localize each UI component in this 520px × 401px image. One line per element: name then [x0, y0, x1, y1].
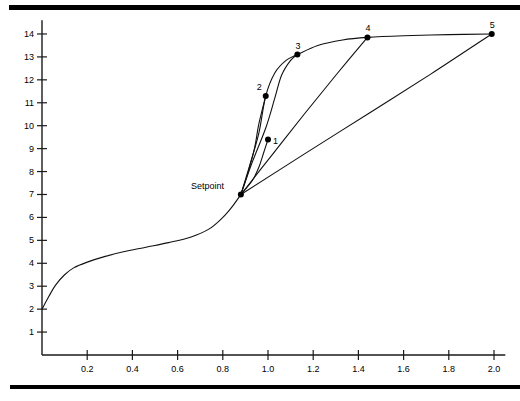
marker-endpoint-1	[265, 136, 271, 142]
x-tick-label: 0.2	[67, 365, 107, 374]
endpoint-label-3: 3	[295, 42, 300, 51]
marker-endpoint-5	[489, 31, 495, 37]
marker-setpoint	[238, 191, 244, 197]
y-tick-label: 2	[6, 305, 34, 314]
x-tick-label: 1.6	[384, 365, 424, 374]
x-tick-label: 0.6	[158, 365, 198, 374]
y-tick-label: 10	[6, 122, 34, 131]
x-tick-label: 1.4	[338, 365, 378, 374]
y-tick-label: 3	[6, 282, 34, 291]
y-tick-label: 11	[6, 99, 34, 108]
x-tick-label: 1.2	[293, 365, 333, 374]
x-tick-label: 1.0	[248, 365, 288, 374]
y-tick-label: 5	[6, 236, 34, 245]
series-load-curve	[42, 194, 241, 309]
y-tick-label: 9	[6, 145, 34, 154]
x-tick-label: 2.0	[474, 365, 514, 374]
series-layer	[42, 34, 492, 309]
y-tick-label: 8	[6, 168, 34, 177]
y-tick-label: 4	[6, 259, 34, 268]
series-trajectory-3	[241, 55, 298, 195]
x-tick-label: 0.4	[112, 365, 152, 374]
endpoint-label-4: 4	[365, 24, 370, 33]
marker-layer	[238, 31, 495, 198]
setpoint-label: Setpoint	[191, 182, 224, 191]
y-tick-label: 1	[6, 328, 34, 337]
marker-endpoint-3	[294, 52, 300, 58]
x-tick-label: 1.8	[429, 365, 469, 374]
series-trajectory-4	[241, 37, 368, 194]
marker-endpoint-4	[364, 34, 370, 40]
series-trajectory-5	[241, 34, 492, 195]
endpoint-label-1: 1	[273, 137, 278, 146]
y-tick-label: 12	[6, 76, 34, 85]
y-tick-label: 13	[6, 53, 34, 62]
endpoint-label-5: 5	[490, 21, 495, 30]
y-tick-label: 6	[6, 213, 34, 222]
y-tick-label: 14	[6, 30, 34, 39]
endpoint-label-2: 2	[257, 83, 262, 92]
trajectory-chart	[0, 0, 520, 401]
y-tick-label: 7	[6, 190, 34, 199]
x-tick-label: 0.8	[203, 365, 243, 374]
marker-endpoint-2	[263, 93, 269, 99]
